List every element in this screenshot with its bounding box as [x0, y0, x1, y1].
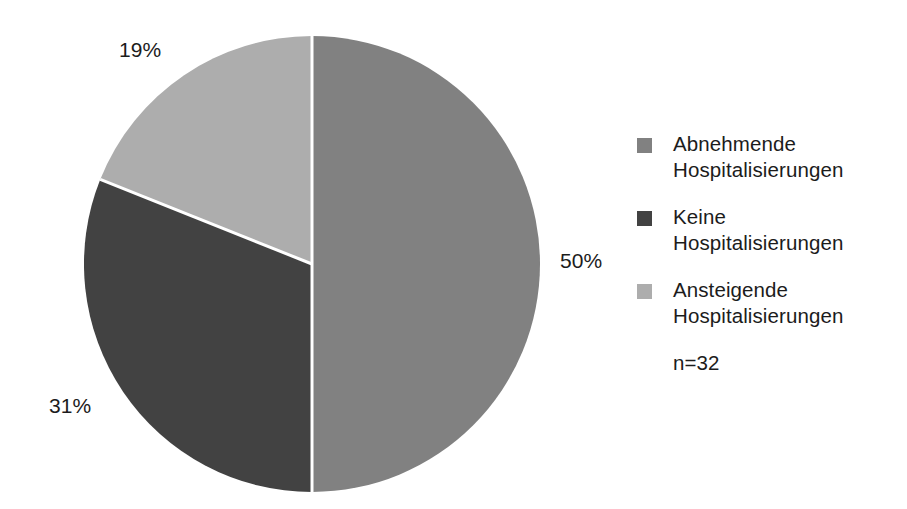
pie-chart-figure: 19% 31% 50% Abnehmende Hospitalisierunge… — [0, 0, 907, 509]
legend-label-keine-line2: Hospitalisierungen — [673, 230, 887, 256]
legend-item-ansteigende[interactable]: Ansteigende Hospitalisierungen — [637, 277, 887, 329]
pie-slice-abnehmende[interactable] — [312, 36, 540, 492]
legend-swatch-abnehmende-icon — [637, 138, 652, 153]
legend-sample-size-note: n=32 — [673, 350, 887, 376]
legend-label-ansteigende-line1: Ansteigende — [673, 278, 788, 301]
pie-label-31-percent: 31% — [49, 393, 91, 419]
legend-label-abnehmende-line1: Abnehmende — [673, 132, 796, 155]
pie-label-50-percent: 50% — [560, 248, 602, 274]
pie-graphic — [84, 36, 540, 492]
legend-label-ansteigende-line2: Hospitalisierungen — [673, 303, 887, 329]
legend-label-keine: Keine Hospitalisierungen — [673, 204, 887, 256]
legend-swatch-keine-icon — [637, 211, 652, 226]
legend-label-abnehmende-line2: Hospitalisierungen — [673, 157, 887, 183]
pie-label-19-percent: 19% — [119, 37, 161, 63]
legend-label-abnehmende: Abnehmende Hospitalisierungen — [673, 131, 887, 183]
pie-svg — [84, 36, 540, 492]
legend-label-ansteigende: Ansteigende Hospitalisierungen — [673, 277, 887, 329]
chart-legend: Abnehmende Hospitalisierungen Keine Hosp… — [637, 131, 887, 376]
legend-swatch-ansteigende-icon — [637, 284, 652, 299]
legend-item-keine[interactable]: Keine Hospitalisierungen — [637, 204, 887, 256]
legend-item-abnehmende[interactable]: Abnehmende Hospitalisierungen — [637, 131, 887, 183]
legend-label-keine-line1: Keine — [673, 205, 726, 228]
